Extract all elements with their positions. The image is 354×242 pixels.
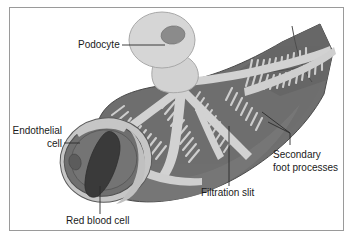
label-podocyte: Podocyte	[78, 39, 120, 50]
label-secondary-foot-processes-line1: Secondary	[273, 149, 321, 160]
label-endothelial-cell-line1: Endothelial	[13, 125, 62, 136]
label-red-blood-cell: Red blood cell	[66, 215, 129, 226]
label-filtration-slit: Filtration slit	[201, 187, 255, 198]
label-endothelial-cell-line2: cell	[47, 138, 62, 149]
podocyte-diagram: Podocyte Endothelial cell Red blood cell…	[0, 0, 354, 242]
podocyte-group	[129, 12, 198, 93]
figure-root: Podocyte Endothelial cell Red blood cell…	[0, 0, 354, 242]
label-secondary-foot-processes-line2: foot processes	[273, 162, 338, 173]
